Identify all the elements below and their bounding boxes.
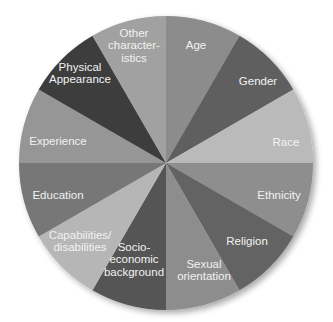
label-education: Education — [32, 189, 83, 201]
label-race: Race — [273, 136, 300, 148]
label-religion: Religion — [226, 235, 268, 247]
label-experience: Experience — [29, 135, 87, 147]
label-ethnicity: Ethnicity — [257, 189, 301, 201]
label-age: Age — [186, 39, 206, 51]
diversity-pie-chart: AgeGenderRaceEthnicityReligionSexualorie… — [0, 0, 333, 322]
label-capabilities-disabilities: Capabilities/disabilities — [49, 229, 112, 254]
label-gender: Gender — [239, 75, 278, 87]
